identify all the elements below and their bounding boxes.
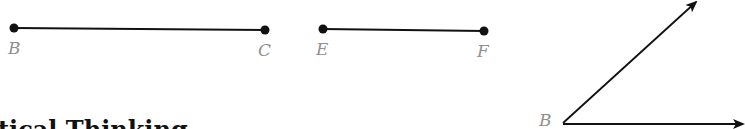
point-b-dot: [10, 24, 19, 33]
label-b: B: [8, 40, 21, 57]
label-e: E: [316, 41, 328, 58]
angle-b: [563, 2, 743, 124]
label-angle-vertex-b: B: [539, 112, 552, 129]
label-c: C: [258, 42, 271, 59]
figure-drawing: [0, 0, 745, 129]
geometry-figure: B C E F B tical Thinking: [0, 0, 745, 129]
segment-ef: [319, 25, 489, 36]
point-f-dot: [480, 27, 489, 36]
point-e-dot: [319, 25, 328, 34]
label-f: F: [477, 43, 489, 60]
ray-upper-arrow: [563, 2, 696, 123]
section-heading: tical Thinking: [0, 118, 188, 129]
point-c-dot: [261, 26, 270, 35]
segment-bc: [10, 24, 270, 35]
